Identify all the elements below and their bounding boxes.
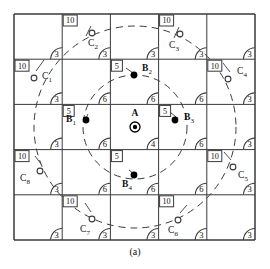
grid-cell[interactable]: 65	[63, 105, 110, 149]
stub-line	[36, 60, 44, 71]
corner-arc-value: 3	[247, 49, 251, 59]
cell-box-value: 5	[115, 152, 119, 161]
node-label-subscript: 7	[86, 229, 90, 237]
node-label: C4	[237, 66, 247, 79]
grid-cell[interactable]: 310	[160, 15, 207, 59]
grid-cell[interactable]: 3	[51, 138, 63, 150]
corner-arc-value: 6	[103, 94, 107, 104]
corner-arc-value: 3	[199, 49, 203, 59]
grid-cell[interactable]: 6	[195, 183, 207, 195]
cell-box-value: 10	[66, 16, 74, 25]
node-label: C3	[169, 40, 179, 53]
node-c4[interactable]: C4	[225, 66, 247, 82]
corner-arc-value: 6	[199, 94, 203, 104]
grid-cell[interactable]: 3	[147, 229, 159, 241]
grid-cell[interactable]: 3	[51, 229, 63, 241]
corner-arc-value: 3	[55, 230, 59, 240]
node-label: A	[132, 108, 139, 118]
grid-cell[interactable]: 3	[51, 48, 63, 60]
node-filled-dot	[83, 117, 90, 124]
grid-cell[interactable]: 310	[160, 196, 207, 240]
node-label: C8	[20, 173, 30, 186]
node-open-circle	[89, 30, 95, 36]
grid-cell[interactable]: 3	[244, 138, 256, 150]
node-filled-dot	[131, 172, 138, 179]
corner-arc-value: 6	[151, 184, 155, 194]
node-c8[interactable]: C8	[20, 168, 43, 186]
node-label-subscript: 4	[128, 184, 132, 192]
node-label: B1	[66, 114, 76, 127]
corner-arc-value: 3	[199, 230, 203, 240]
diagram-canvas: 3310331033106656310365465331066563103310…	[0, 0, 270, 269]
node-open-circle	[31, 75, 37, 81]
grid-cell[interactable]: 4	[147, 138, 159, 150]
node-label-subscript: 3	[175, 45, 179, 53]
node-label-subscript: 5	[244, 175, 248, 183]
corner-arc-value: 3	[247, 230, 251, 240]
node-open-circle	[175, 217, 181, 223]
node-label: C5	[238, 170, 248, 183]
node-open-circle	[37, 168, 43, 174]
stub-line	[85, 203, 91, 212]
cell-box-value: 10	[18, 62, 26, 71]
cell-box-value: 10	[18, 152, 26, 161]
cell-box-value: 10	[163, 197, 171, 206]
stub-line	[180, 205, 187, 213]
cell-box-value: 5	[115, 62, 119, 71]
node-label-subscript: 1	[48, 76, 52, 84]
stub-line	[223, 63, 230, 72]
corner-arc-value: 3	[103, 49, 107, 59]
corner-arc-value: 6	[103, 139, 107, 149]
grid-cell[interactable]: 6	[99, 93, 111, 105]
corner-arc-value: 3	[55, 94, 59, 104]
corner-arc-value: 3	[103, 230, 107, 240]
node-open-circle	[177, 31, 183, 37]
stub-line	[35, 156, 41, 164]
node-b3[interactable]: B3	[172, 112, 195, 125]
node-label-subscript: 4	[243, 71, 247, 79]
cell-box-value: 10	[163, 16, 171, 25]
node-a[interactable]: A	[130, 108, 140, 132]
stub-line	[126, 68, 133, 73]
node-label: B2	[142, 63, 152, 76]
node-b4[interactable]: B4	[122, 172, 137, 192]
corner-arc-value: 3	[247, 139, 251, 149]
node-label-subscript: 6	[174, 230, 178, 238]
grid-cell[interactable]: 6	[195, 93, 207, 105]
corner-arc-value: 3	[55, 184, 59, 194]
cell-box-value: 10	[66, 197, 74, 206]
node-b2[interactable]: B2	[131, 63, 153, 78]
corner-arc-value: 3	[247, 184, 251, 194]
node-label: C2	[88, 38, 98, 51]
node-label: C1	[42, 71, 52, 84]
node-b1[interactable]: B1	[66, 114, 89, 127]
grid-cell[interactable]: 3	[244, 229, 256, 241]
node-label: C6	[168, 225, 178, 238]
node-c6[interactable]: C6	[168, 217, 181, 238]
cell-box-value: 10	[211, 62, 219, 71]
node-label-text: A	[132, 108, 139, 118]
corner-arc-value: 6	[103, 184, 107, 194]
grid-cell[interactable]: 3	[244, 48, 256, 60]
node-c7[interactable]: C7	[80, 216, 95, 237]
corner-arc-value: 6	[199, 139, 203, 149]
node-label: B4	[122, 179, 132, 192]
corner-arc-value: 3	[247, 94, 251, 104]
corner-arc-value: 4	[151, 139, 156, 149]
node-label-subscript: 2	[94, 43, 98, 51]
cell-box-value: 5	[163, 107, 167, 116]
corner-arc-value: 6	[199, 184, 203, 194]
node-label-subscript: 3	[190, 117, 194, 125]
node-filled-dot	[131, 72, 138, 79]
corner-arc-value: 3	[151, 230, 155, 240]
node-c5[interactable]: C5	[230, 164, 248, 183]
grid-cell[interactable]: 3	[147, 48, 159, 60]
corner-arc-value: 6	[151, 94, 155, 104]
node-label: C7	[80, 224, 90, 237]
grid-cell[interactable]: 6	[99, 183, 111, 195]
node-open-circle	[89, 216, 95, 222]
stub-line	[224, 152, 231, 160]
node-filled-dot	[172, 117, 179, 124]
node-label-subscript: 8	[26, 178, 30, 186]
grid-cell[interactable]: 310	[63, 15, 110, 59]
